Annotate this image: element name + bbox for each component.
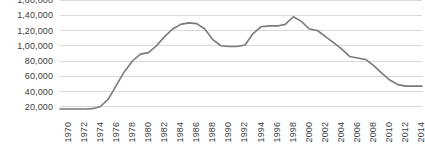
y-axis-tick-label: 1,00,000: [17, 41, 53, 50]
x-axis-tick-label: 1978: [128, 122, 137, 142]
x-axis-tick-label: 1992: [240, 122, 249, 142]
x-axis-tick-label: 1982: [160, 122, 169, 142]
x-axis-tick-label: 1990: [224, 122, 233, 142]
x-axis-tick-label: 1974: [96, 122, 105, 142]
x-axis-tick-label: 2014: [417, 122, 425, 142]
x-axis-tick-label: 2008: [369, 122, 378, 142]
y-axis-tick-label: 1,20,000: [17, 26, 53, 35]
x-axis-tick-label: 2010: [385, 122, 394, 142]
line-chart: 20,00040,00060,00080,0001,00,0001,20,000…: [0, 0, 425, 163]
y-axis-tick-label: 20,000: [25, 102, 53, 111]
x-axis-tick-label: 1994: [257, 122, 266, 142]
y-axis: 20,00040,00060,00080,0001,00,0001,20,000…: [0, 0, 56, 122]
x-axis-tick-label: 1998: [289, 122, 298, 142]
x-axis: 1970197219741976197819801982198419861988…: [60, 122, 422, 163]
x-axis-tick-label: 2012: [401, 122, 410, 142]
x-axis-tick-label: 1988: [208, 122, 217, 142]
x-axis-tick-label: 2006: [353, 122, 362, 142]
y-axis-tick-label: 1,60,000: [17, 0, 53, 5]
y-axis-tick-label: 1,40,000: [17, 11, 53, 20]
x-axis-tick-label: 2002: [321, 122, 330, 142]
plot-area: [60, 0, 422, 122]
y-axis-tick-label: 40,000: [25, 87, 53, 96]
x-axis-tick-label: 1976: [112, 122, 121, 142]
x-axis-tick-label: 2004: [337, 122, 346, 142]
x-axis-tick-label: 1996: [273, 122, 282, 142]
x-axis-tick-label: 1972: [80, 122, 89, 142]
x-axis-tick-label: 1984: [176, 122, 185, 142]
plot-svg: [60, 0, 422, 122]
x-axis-tick-label: 1986: [192, 122, 201, 142]
gridlines: [60, 0, 422, 107]
x-axis-tick-label: 2000: [305, 122, 314, 142]
x-axis-tick-label: 1970: [64, 122, 73, 142]
y-axis-tick-label: 60,000: [25, 72, 53, 81]
y-axis-tick-label: 80,000: [25, 57, 53, 66]
x-axis-tick-label: 1980: [144, 122, 153, 142]
